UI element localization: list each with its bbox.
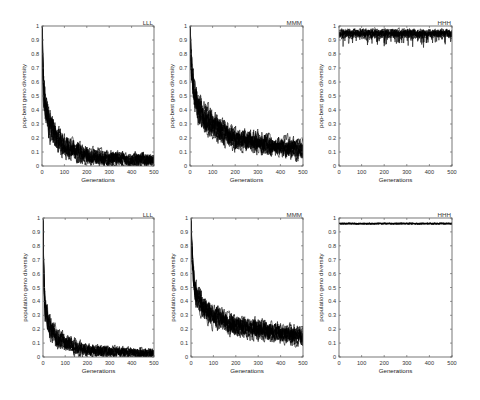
y-tick-label: 0.3 (180, 312, 188, 318)
panel-lll-population: 00.10.20.30.40.50.60.70.80.9101002003004… (21, 211, 159, 374)
y-tick-label: 0.1 (180, 340, 188, 346)
x-tick-label: 0 (41, 360, 44, 366)
axes-box (339, 218, 452, 357)
axes-box (339, 26, 452, 166)
figure-grid: 00.10.20.30.40.50.60.70.80.9101002003004… (0, 0, 480, 400)
x-tick-label: 100 (208, 169, 217, 175)
y-tick-label: 0.7 (328, 257, 336, 263)
y-tick-label: 0.3 (31, 121, 39, 127)
x-tick-label: 100 (209, 360, 218, 366)
y-tick-label: 0.4 (179, 107, 187, 113)
y-tick-label: 0.3 (32, 312, 40, 318)
y-axis-label: population geno diversity (317, 252, 324, 321)
run-lines (339, 28, 452, 48)
x-axis-label: Generations (379, 176, 413, 183)
y-tick-label: 0 (333, 163, 336, 169)
y-tick-label: 0.2 (328, 326, 336, 332)
y-tick-label: 0.1 (179, 149, 187, 155)
y-tick-label: 0.2 (328, 135, 336, 141)
x-tick-label: 100 (357, 360, 366, 366)
x-tick-label: 300 (402, 169, 411, 175)
run-lines (42, 26, 154, 166)
x-tick-label: 500 (149, 360, 158, 366)
x-axis-label: Generations (379, 367, 413, 374)
x-tick-label: 0 (337, 360, 340, 366)
x-tick-label: 100 (60, 169, 69, 175)
y-tick-label: 0.9 (328, 229, 336, 235)
run-lines (191, 218, 303, 347)
panel-title: HHH (438, 19, 451, 26)
x-tick-label: 500 (298, 360, 307, 366)
panel-mmm-population: 00.10.20.30.40.50.60.70.80.9101002003004… (169, 211, 308, 374)
y-tick-label: 0.4 (32, 298, 40, 304)
y-tick-label: 0.7 (31, 65, 39, 71)
y-tick-label: 1 (333, 215, 336, 221)
panel-title: MMM (287, 19, 302, 26)
y-tick-label: 0.9 (179, 37, 187, 43)
y-tick-label: 0.8 (180, 243, 188, 249)
y-tick-label: 0.9 (31, 37, 39, 43)
panel-hhh-population: 00.10.20.30.40.50.60.70.80.9101002003004… (317, 211, 457, 374)
y-tick-label: 0.5 (328, 93, 336, 99)
panel-title: MMM (287, 211, 302, 218)
x-axis-label: Generations (82, 367, 116, 374)
panel-title: LLL (143, 19, 154, 26)
y-tick-label: 0.8 (328, 243, 336, 249)
y-tick-label: 0.2 (179, 135, 187, 141)
y-tick-label: 0.4 (180, 298, 188, 304)
y-tick-label: 0.7 (179, 65, 187, 71)
run-lines (43, 219, 154, 357)
panel-title: HHH (438, 211, 451, 218)
y-tick-label: 0.5 (179, 93, 187, 99)
x-tick-label: 0 (337, 169, 340, 175)
x-tick-label: 0 (188, 169, 191, 175)
y-tick-label: 0.8 (31, 51, 39, 57)
x-tick-label: 100 (357, 169, 366, 175)
panel-mmm-pop-best: 00.10.20.30.40.50.60.70.80.9101002003004… (168, 19, 308, 183)
y-tick-label: 0.2 (180, 326, 188, 332)
y-tick-label: 0.8 (32, 243, 40, 249)
x-tick-label: 300 (253, 169, 262, 175)
y-tick-label: 0.4 (328, 298, 336, 304)
x-tick-label: 400 (425, 360, 434, 366)
y-tick-label: 0.6 (32, 271, 40, 277)
y-tick-label: 0.8 (179, 51, 187, 57)
run-line (42, 26, 154, 166)
y-axis-label: pop-best geno diversity (168, 63, 175, 128)
y-tick-label: 0.3 (179, 121, 187, 127)
y-tick-label: 0.7 (180, 257, 188, 263)
y-tick-label: 1 (36, 23, 39, 29)
y-tick-label: 0.4 (328, 107, 336, 113)
y-tick-label: 0.2 (31, 135, 39, 141)
panel-lll-pop-best: 00.10.20.30.40.50.60.70.80.9101002003004… (20, 19, 159, 183)
x-tick-label: 400 (276, 360, 285, 366)
panel-title: LLL (143, 211, 154, 218)
y-tick-label: 0.6 (328, 79, 336, 85)
y-tick-label: 0.3 (328, 121, 336, 127)
run-line (190, 26, 303, 162)
y-tick-label: 0.3 (328, 312, 336, 318)
y-axis-label: population geno diversity (21, 252, 28, 321)
x-tick-label: 0 (189, 360, 192, 366)
y-tick-label: 0.1 (32, 340, 40, 346)
x-tick-label: 400 (276, 169, 285, 175)
x-tick-label: 300 (254, 360, 263, 366)
y-axis-label: population geno diversity (169, 252, 176, 321)
y-tick-label: 0.9 (180, 229, 188, 235)
y-tick-label: 0.4 (31, 107, 39, 113)
x-tick-label: 300 (105, 169, 114, 175)
y-tick-label: 0 (333, 354, 336, 360)
y-tick-label: 0.6 (179, 79, 187, 85)
x-axis-label: Generations (81, 176, 115, 183)
y-tick-label: 0.5 (32, 285, 40, 291)
y-tick-label: 0.2 (32, 326, 40, 332)
x-tick-label: 400 (127, 360, 136, 366)
y-tick-label: 0.7 (328, 65, 336, 71)
y-tick-label: 0 (184, 163, 187, 169)
y-axis-label: pop-best geno diversity (20, 63, 27, 128)
x-axis-label: Generations (230, 367, 264, 374)
x-tick-label: 200 (82, 169, 91, 175)
x-tick-label: 0 (40, 169, 43, 175)
x-tick-label: 300 (105, 360, 114, 366)
x-tick-label: 500 (298, 169, 307, 175)
